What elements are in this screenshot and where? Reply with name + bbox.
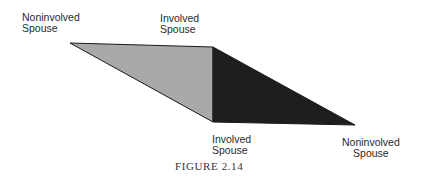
label-involved-spouse-bottom: Involved Spouse (212, 134, 251, 156)
label-line: Spouse (342, 148, 400, 159)
label-line: Spouse (160, 24, 199, 35)
label-line: Spouse (22, 23, 80, 34)
dark-triangle (213, 47, 355, 125)
figure-caption: FIGURE 2.14 (175, 160, 243, 172)
label-noninvolved-spouse-bottom-right: Noninvolved Spouse (342, 137, 400, 159)
label-involved-spouse-top: Involved Spouse (160, 13, 199, 35)
label-line: Spouse (212, 145, 251, 156)
light-triangle (70, 43, 213, 122)
label-noninvolved-spouse-top-left: Noninvolved Spouse (22, 12, 80, 34)
